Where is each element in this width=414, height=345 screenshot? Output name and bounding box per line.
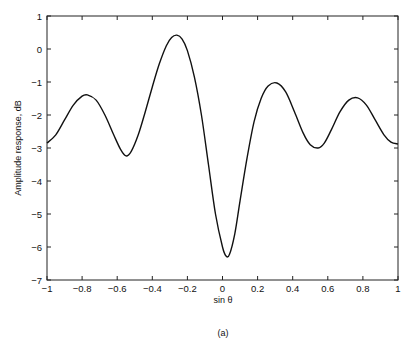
y-tick-label: −3 [31,143,42,154]
x-tick-label: 0.8 [356,283,369,294]
amplitude-response-curve [47,35,398,257]
chart: −1−0.8−0.6−0.4−0.200.20.40.60.81 10−1−2−… [0,0,414,345]
plot-frame [47,16,398,280]
y-tick-label: −2 [31,110,42,121]
axis-ticks [47,16,398,280]
y-tick-label: −7 [31,275,42,286]
x-tick-labels: −1−0.8−0.6−0.4−0.200.20.40.60.81 [42,283,401,294]
x-tick-label: −0.4 [143,283,162,294]
figure-caption: (a) [218,328,229,338]
y-tick-label: −4 [31,176,42,187]
x-axis-label: sin θ [213,295,232,305]
x-tick-label: −1 [42,283,53,294]
y-tick-labels: 10−1−2−3−4−5−6−7 [31,11,42,286]
y-tick-label: −6 [31,242,42,253]
x-tick-label: 0.2 [251,283,264,294]
x-tick-label: −0.6 [108,283,127,294]
y-tick-label: −1 [31,77,42,88]
x-tick-label: 0 [220,283,225,294]
x-tick-label: −0.2 [178,283,197,294]
y-tick-label: −5 [31,209,42,220]
y-tick-label: 0 [37,44,42,55]
x-tick-label: −0.8 [73,283,92,294]
x-tick-label: 1 [395,283,400,294]
y-axis-label: Amplitude response, dB [13,100,23,196]
y-tick-label: 1 [37,11,42,22]
x-tick-label: 0.4 [286,283,299,294]
x-tick-label: 0.6 [321,283,334,294]
